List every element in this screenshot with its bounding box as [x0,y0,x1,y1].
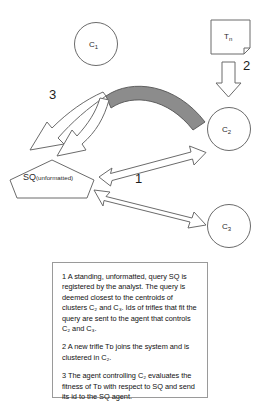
legend-paragraph-2: 2 A new trifle Tᴅ joins the system and i… [62,342,198,363]
arrow-sq-to-c3 [94,190,206,228]
arrow-sq-to-c2 [99,146,206,186]
cluster-node-c3-label: C3 [222,222,231,232]
cluster-node-c2-label: C2 [222,125,231,135]
step-label-2: 2 [243,58,250,73]
step-label-1: 1 [135,171,142,186]
legend-paragraph-3: 3 The agent controlling C₂ evaluates the… [62,371,198,402]
arrow-tn-to-c2 [216,62,241,97]
cluster-span-arc [106,86,205,130]
legend-paragraph-1: 1 A standing, unformatted, query SQ is r… [62,272,198,334]
standing-query-node-label: SQ(unformatted) [23,172,73,182]
legend-box: 1 A standing, unformatted, query SQ is r… [52,262,208,398]
step-label-3: 3 [49,87,56,102]
cluster-node-c1-label: C1 [89,40,98,50]
sq-name: SQ [23,172,36,182]
trifle-node-tn-label: Tn [224,32,232,42]
sq-qualifier: (unformatted) [36,174,73,181]
